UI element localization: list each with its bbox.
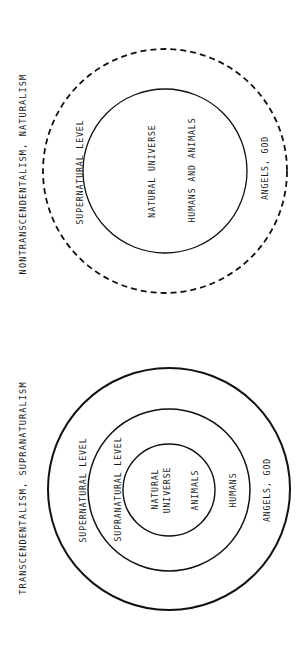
humans-label: HUMANS bbox=[228, 473, 238, 508]
animals-label: ANIMALS bbox=[190, 470, 200, 511]
angels-god-label: ANGELS, GOD bbox=[262, 458, 272, 522]
supernatural-level-label: SUPERNATURAL LEVEL bbox=[78, 438, 88, 543]
supranaturalism-diagram: TRANSCENDENTALISM, SUPRANATURALISM SUPER… bbox=[18, 368, 290, 610]
humans-and-animals-label: HUMANS AND ANIMALS bbox=[187, 118, 197, 223]
supernatural-level-label: SUPERNATURAL LEVEL bbox=[75, 120, 85, 225]
angels-god-label: ANGELS, GOD bbox=[260, 136, 270, 200]
supranatural-level-label: SUPRANATURAL LEVEL bbox=[113, 437, 123, 542]
naturalism-title: NONTRANSCENDENTALISM, NATURALISM bbox=[18, 74, 28, 275]
diagram-canvas: NONTRANSCENDENTALISM, NATURALISM SUPERNA… bbox=[0, 0, 308, 647]
supranaturalism-title: TRANSCENDENTALISM, SUPRANATURALISM bbox=[18, 381, 28, 594]
natural-label: NATURAL bbox=[150, 469, 160, 510]
natural-universe-label: NATURAL UNIVERSE bbox=[147, 124, 157, 217]
universe-label: UNIVERSE bbox=[162, 467, 172, 514]
naturalism-diagram: NONTRANSCENDENTALISM, NATURALISM SUPERNA… bbox=[18, 49, 287, 293]
natural-universe-ring bbox=[83, 89, 247, 253]
